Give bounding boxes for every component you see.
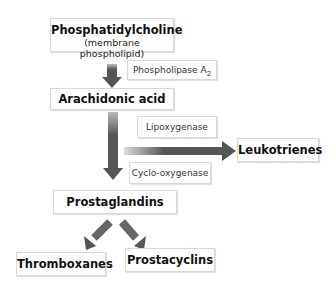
node-label: Leukotrienes (238, 143, 322, 157)
enzyme-label: Phospholipase A (133, 65, 207, 75)
node-label: Prostaglandins (66, 195, 163, 209)
node-label: Arachidonic acid (58, 92, 165, 106)
arrow-down-2 (103, 112, 123, 180)
arrow-to-thromboxanes (84, 222, 110, 250)
arrow-down-1 (102, 64, 122, 88)
arrow-to-prostacyclins (122, 222, 146, 250)
enzyme-phospholipase: Phospholipase A2 (127, 60, 217, 80)
enzyme-label: Lipoxygenase (146, 122, 208, 132)
node-label: Thromboxanes (17, 257, 113, 271)
node-prostaglandins: Prostaglandins (53, 190, 177, 214)
enzyme-label: Cyclo-oxygenase (132, 168, 209, 178)
node-phosphatidylcholine: Phosphatidylcholine (membrane phospholip… (50, 18, 174, 52)
enzyme-lipoxygenase: Lipoxygenase (137, 116, 217, 138)
arrow-right-leukotrienes (124, 141, 236, 161)
enzyme-subscript: 2 (207, 70, 211, 78)
node-prostacyclins: Prostacyclins (125, 248, 215, 272)
node-leukotrienes: Leukotrienes (237, 138, 319, 162)
node-arachidonic-acid: Arachidonic acid (50, 88, 174, 110)
node-thromboxanes: Thromboxanes (16, 252, 106, 276)
node-sublabel: (membrane phospholipid) (51, 37, 173, 59)
node-label: Phosphatidylcholine (51, 23, 173, 37)
node-label: Prostacyclins (127, 253, 213, 267)
enzyme-cyclooxygenase: Cyclo-oxygenase (129, 162, 211, 184)
